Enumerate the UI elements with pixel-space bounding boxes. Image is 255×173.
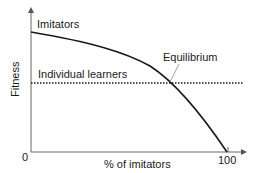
equilibrium-pointer	[170, 64, 179, 82]
individual-learners-label: Individual learners	[38, 68, 128, 80]
y-axis-label: Fitness	[9, 61, 21, 97]
equilibrium-label: Equilibrium	[163, 51, 217, 63]
imitators-curve	[31, 32, 227, 152]
x-tick-0-label: 0	[22, 151, 28, 163]
chart: Imitators Individual learners Equilibriu…	[0, 0, 255, 173]
imitators-label: Imitators	[37, 18, 80, 30]
x-tick-100-label: 100	[218, 154, 236, 166]
x-axis-label: % of imitators	[104, 158, 171, 170]
